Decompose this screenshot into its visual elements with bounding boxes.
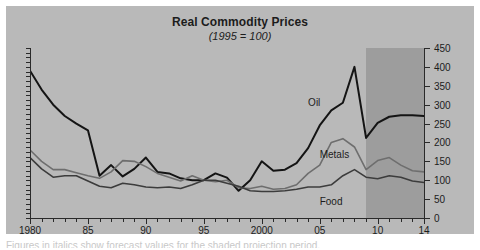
x-tick-minor xyxy=(76,219,77,222)
y-tick-label: 100 xyxy=(434,175,451,186)
x-tick-minor xyxy=(157,219,158,222)
x-tick-minor xyxy=(389,219,390,222)
y-tick-mark-left xyxy=(26,76,31,77)
series-line-oil xyxy=(30,67,424,191)
x-tick-minor xyxy=(308,219,309,222)
y-tick-mark-left xyxy=(26,124,31,125)
y-tick-mark xyxy=(425,48,430,49)
y-tick-mark-left xyxy=(26,95,31,96)
y-tick-mark xyxy=(425,124,430,125)
y-tick-mark-left xyxy=(26,105,31,106)
x-tick-label: 05 xyxy=(314,225,325,234)
x-tick-label: 85 xyxy=(82,225,93,234)
x-tick-label: 14 xyxy=(418,225,429,234)
y-tick-mark-left xyxy=(26,190,31,191)
x-tick-major xyxy=(30,219,31,224)
y-tick-label: 350 xyxy=(434,80,451,91)
x-tick-label: 2000 xyxy=(251,225,273,234)
y-tick-mark-left xyxy=(26,114,31,115)
x-tick-minor xyxy=(273,219,274,222)
x-tick-minor xyxy=(181,219,182,222)
caption-sliver: Figures in italics show forecast values … xyxy=(6,240,474,248)
x-tick-major xyxy=(320,219,321,224)
y-tick-mark-left xyxy=(26,213,31,214)
y-tick-mark-left xyxy=(26,109,31,110)
chart-subtitle: (1995 = 100) xyxy=(6,30,474,42)
y-tick-mark-left xyxy=(26,100,31,101)
y-tick-mark-left xyxy=(26,142,31,143)
x-tick-label: 90 xyxy=(140,225,151,234)
x-tick-major xyxy=(262,219,263,224)
y-tick-mark xyxy=(425,161,430,162)
y-tick-mark xyxy=(425,142,430,143)
x-tick-minor xyxy=(134,219,135,222)
x-tick-minor xyxy=(169,219,170,222)
y-tick-mark-left xyxy=(26,133,31,134)
x-tick-minor xyxy=(331,219,332,222)
y-tick-label: 450 xyxy=(434,43,451,54)
y-tick-mark-left xyxy=(26,209,31,210)
y-tick-label: 50 xyxy=(434,194,445,205)
x-tick-minor xyxy=(285,219,286,222)
x-tick-minor xyxy=(412,219,413,222)
x-tick-minor xyxy=(354,219,355,222)
y-tick-mark-left xyxy=(26,128,31,129)
y-tick-label: 150 xyxy=(434,156,451,167)
y-tick-mark-left xyxy=(26,147,31,148)
x-tick-minor xyxy=(111,219,112,222)
x-tick-major xyxy=(424,219,425,224)
y-tick-label: 400 xyxy=(434,61,451,72)
y-tick-label: 200 xyxy=(434,137,451,148)
y-axis-right-line xyxy=(424,48,425,219)
y-tick-mark-left xyxy=(26,194,31,195)
x-tick-minor xyxy=(123,219,124,222)
y-tick-mark-left xyxy=(26,86,31,87)
y-tick-mark-left xyxy=(26,72,31,73)
x-tick-major xyxy=(146,219,147,224)
y-tick-mark xyxy=(425,180,430,181)
y-tick-mark-left xyxy=(26,171,31,172)
x-tick-label: 95 xyxy=(198,225,209,234)
y-tick-mark xyxy=(425,199,430,200)
y-tick-mark-left xyxy=(26,67,31,68)
chart-figure: Real Commodity Prices (1995 = 100) 05010… xyxy=(0,0,480,250)
y-tick-mark-left xyxy=(26,62,31,63)
x-tick-minor xyxy=(53,219,54,222)
y-tick-mark-left xyxy=(26,157,31,158)
y-tick-mark-left xyxy=(26,53,31,54)
plot-area xyxy=(30,48,424,218)
series-lines xyxy=(30,48,424,218)
y-tick-mark-left xyxy=(26,138,31,139)
x-tick-minor xyxy=(239,219,240,222)
y-tick-mark-left xyxy=(26,119,31,120)
x-tick-minor xyxy=(215,219,216,222)
series-label-metals: Metals xyxy=(320,149,349,160)
y-tick-mark xyxy=(425,86,430,87)
chart-title: Real Commodity Prices xyxy=(6,15,474,29)
x-tick-label: 1980 xyxy=(19,225,41,234)
y-tick-mark-left xyxy=(26,199,31,200)
x-tick-minor xyxy=(192,219,193,222)
y-tick-mark xyxy=(425,105,430,106)
y-tick-mark xyxy=(425,67,430,68)
x-tick-minor xyxy=(65,219,66,222)
x-tick-minor xyxy=(227,219,228,222)
chart-panel: Real Commodity Prices (1995 = 100) 05010… xyxy=(6,6,474,234)
y-tick-mark-left xyxy=(26,91,31,92)
x-tick-label: 10 xyxy=(372,225,383,234)
x-tick-major xyxy=(88,219,89,224)
y-tick-mark-left xyxy=(26,204,31,205)
y-tick-mark-left xyxy=(26,48,31,49)
x-tick-minor xyxy=(366,219,367,222)
y-tick-mark-left xyxy=(26,176,31,177)
x-tick-minor xyxy=(343,219,344,222)
y-tick-label: 300 xyxy=(434,99,451,110)
series-label-oil: Oil xyxy=(308,97,320,108)
y-tick-mark-left xyxy=(26,81,31,82)
y-tick-label: 250 xyxy=(434,118,451,129)
x-tick-minor xyxy=(297,219,298,222)
series-label-food: Food xyxy=(320,196,343,207)
x-tick-minor xyxy=(42,219,43,222)
x-tick-minor xyxy=(100,219,101,222)
y-tick-mark xyxy=(425,218,430,219)
